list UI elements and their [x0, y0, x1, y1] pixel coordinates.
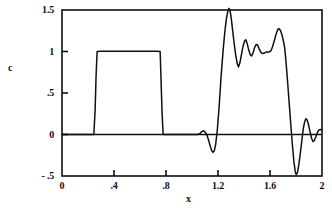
x-axis-title: x [186, 193, 191, 204]
x-tick-label: 2 [302, 180, 332, 191]
x-tick-label: .8 [146, 180, 186, 191]
plot-frame [62, 10, 322, 176]
y-axis-title: c [8, 62, 12, 73]
chart-figure: 1.51.50- .5 0.4.81.21.62 c x [0, 0, 332, 210]
y-tick-label: 1 [14, 46, 54, 57]
y-tick-label: .5 [14, 87, 54, 98]
y-tick-label: 0 [14, 129, 54, 140]
x-tick-label: .4 [94, 180, 134, 191]
y-tick-label: 1.5 [14, 4, 54, 15]
x-tick-label: 0 [42, 180, 82, 191]
x-tick-label: 1.6 [250, 180, 290, 191]
x-tick-label: 1.2 [198, 180, 238, 191]
